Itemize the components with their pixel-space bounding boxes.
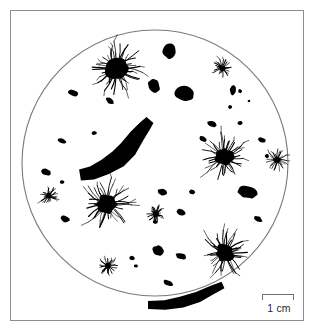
- colony-filament: [92, 67, 105, 68]
- colony-filament-branch: [236, 273, 240, 276]
- colony-core: [153, 211, 159, 217]
- colony-filament: [111, 265, 118, 266]
- field-of-view-circle: [22, 30, 288, 296]
- scale-bar: 1 cm: [258, 292, 302, 318]
- scale-bar-rule: [262, 294, 294, 300]
- colony-filament: [90, 199, 99, 200]
- figure-root: 1 cm: [0, 0, 317, 333]
- microscopy-field-illustration: [0, 0, 317, 333]
- scale-bar-label: 1 cm: [258, 302, 300, 314]
